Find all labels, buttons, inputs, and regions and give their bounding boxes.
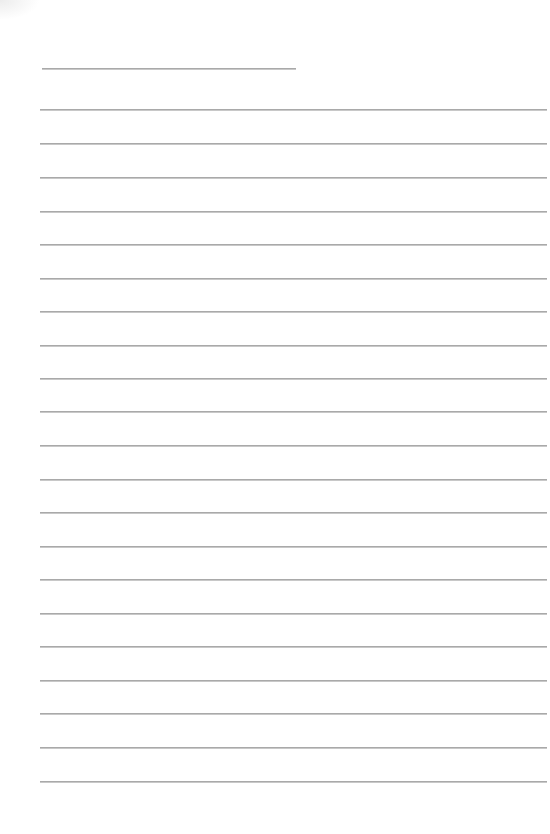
ruled-line — [40, 109, 547, 111]
ruled-line — [40, 613, 547, 615]
ruled-line — [40, 512, 547, 514]
ruled-line — [40, 278, 547, 280]
ruled-line — [40, 211, 547, 213]
ruled-line — [40, 646, 547, 648]
lined-paper-page — [0, 0, 550, 834]
ruled-line — [40, 747, 547, 749]
title-line — [42, 68, 296, 70]
ruled-line — [40, 479, 547, 481]
ruled-line — [40, 445, 547, 447]
ruled-line — [40, 143, 547, 145]
ruled-line — [40, 177, 547, 179]
ruled-line — [40, 546, 547, 548]
ruled-line — [40, 244, 547, 246]
ruled-line — [40, 411, 547, 413]
ruled-line — [40, 311, 547, 313]
ruled-line — [40, 378, 547, 380]
ruled-line — [40, 713, 547, 715]
scan-shadow — [0, 0, 40, 20]
ruled-line — [40, 781, 547, 783]
ruled-line — [40, 680, 547, 682]
ruled-line — [40, 579, 547, 581]
ruled-line — [40, 345, 547, 347]
